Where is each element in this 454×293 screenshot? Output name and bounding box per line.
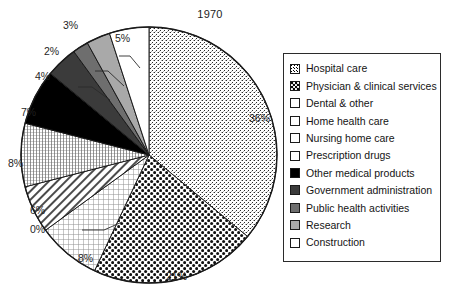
- legend-swatch-icon: [290, 64, 300, 74]
- pie-plot-area: [18, 24, 280, 286]
- legend-item-physician-clinical-services[interactable]: Physician & clinical services: [290, 77, 435, 94]
- legend-swatch-icon: [290, 81, 300, 91]
- pct-label-public-health: 2%: [44, 46, 59, 57]
- legend-item-construction[interactable]: Construction: [290, 234, 435, 251]
- legend-item-label: Public health activities: [306, 203, 409, 214]
- pie-chart-figure: 1970: [0, 0, 454, 293]
- legend-swatch-icon: [290, 168, 300, 178]
- pct-label-other-medical: 7%: [21, 107, 36, 118]
- pie-slice-group: [21, 27, 277, 283]
- pct-label-physician: 21%: [166, 271, 187, 282]
- legend-swatch-icon: [290, 116, 300, 126]
- pct-label-prescription: 8%: [8, 158, 23, 169]
- legend-swatch-icon: [290, 203, 300, 213]
- legend-swatch-icon: [290, 220, 300, 230]
- legend-item-other-medical-products[interactable]: Other medical products: [290, 164, 435, 181]
- legend-item-dental-other[interactable]: Dental & other: [290, 95, 435, 112]
- legend-swatch-icon: [290, 133, 300, 143]
- pct-label-government: 4%: [35, 71, 50, 82]
- legend-box: Hospital carePhysician & clinical servic…: [283, 53, 441, 262]
- pct-label-dental: 8%: [78, 253, 93, 264]
- legend-item-public-health-activities[interactable]: Public health activities: [290, 199, 435, 216]
- legend-item-label: Dental & other: [306, 98, 373, 109]
- legend-swatch-icon: [290, 98, 300, 108]
- pct-label-home-health: 0%: [30, 224, 45, 235]
- legend-swatch-icon: [290, 151, 300, 161]
- legend-item-label: Construction: [306, 237, 365, 248]
- legend-item-label: Physician & clinical services: [306, 81, 437, 92]
- pct-label-nursing: 6%: [30, 205, 45, 216]
- pie-svg: [18, 24, 280, 286]
- legend-swatch-icon: [290, 238, 300, 248]
- pct-label-hospital: 36%: [249, 113, 270, 124]
- legend-item-government-administration[interactable]: Government administration: [290, 182, 435, 199]
- legend-item-label: Home health care: [306, 116, 389, 127]
- legend-item-label: Government administration: [306, 185, 432, 196]
- legend-item-label: Nursing home care: [306, 133, 395, 144]
- pct-label-research: 3%: [63, 20, 78, 31]
- legend-item-label: Research: [306, 220, 351, 231]
- pct-label-construction: 5%: [115, 33, 130, 44]
- legend-item-prescription-drugs[interactable]: Prescription drugs: [290, 147, 435, 164]
- legend-item-research[interactable]: Research: [290, 217, 435, 234]
- legend-item-label: Hospital care: [306, 63, 367, 74]
- legend-swatch-icon: [290, 185, 300, 195]
- legend-item-nursing-home-care[interactable]: Nursing home care: [290, 130, 435, 147]
- legend-item-label: Other medical products: [306, 168, 415, 179]
- legend-item-hospital-care[interactable]: Hospital care: [290, 60, 435, 77]
- legend-item-home-health-care[interactable]: Home health care: [290, 112, 435, 129]
- legend-item-label: Prescription drugs: [306, 150, 391, 161]
